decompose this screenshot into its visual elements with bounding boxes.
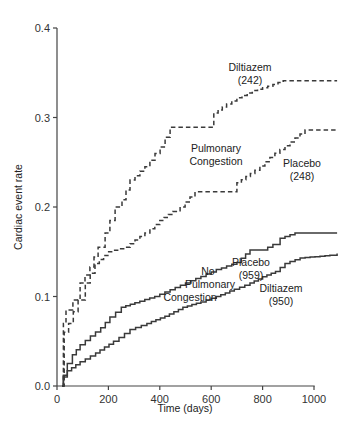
annotation-diltiazem-242: Diltiazem(242): [228, 61, 271, 86]
y-tick-label: 0.2: [35, 201, 50, 213]
annotation-diltiazem-950: Diltiazem(950): [259, 282, 302, 307]
x-tick-label: 200: [99, 393, 117, 405]
y-tick-label: 0.0: [35, 380, 50, 392]
series-diltiazem-950: [62, 254, 337, 387]
y-tick-label: 0.4: [35, 22, 50, 34]
annotation-line: Placebo: [232, 256, 270, 268]
annotation-line: Pulmonary: [191, 142, 242, 154]
kaplan-meier-chart: 0.00.10.20.30.4 02004006008001000 Cardia…: [0, 0, 355, 438]
x-tick-label: 800: [253, 393, 271, 405]
x-tick-label: 0: [54, 393, 60, 405]
x-axis-title: Time (days): [157, 402, 212, 414]
y-axis-title: Cardiac event rate: [12, 164, 24, 250]
series-placebo-959: [62, 233, 337, 386]
annotation-line: (959): [239, 269, 264, 281]
annotation-line: (248): [290, 170, 315, 182]
annotation-pulmonary-congestion: PulmonaryCongestion: [189, 142, 242, 167]
annotation-no-pulmonary-congestion: NoPulmonaryCongestion: [163, 265, 235, 303]
y-axis: 0.00.10.20.30.4: [35, 22, 57, 392]
y-tick-label: 0.1: [35, 291, 50, 303]
annotation-line: Congestion: [163, 291, 216, 303]
annotation-line: Diltiazem: [259, 282, 302, 294]
annotation-line: Pulmonary: [185, 278, 236, 290]
x-tick-label: 1000: [302, 393, 326, 405]
annotation-line: Congestion: [189, 155, 242, 167]
annotation-line: Diltiazem: [228, 61, 271, 73]
annotation-line: (950): [269, 295, 294, 307]
annotation-placebo-248: Placebo(248): [283, 157, 321, 182]
annotation-line: No: [201, 265, 215, 277]
y-tick-label: 0.3: [35, 112, 50, 124]
annotation-line: Placebo: [283, 157, 321, 169]
series-layer: [62, 81, 337, 386]
annotation-line: (242): [238, 74, 263, 86]
